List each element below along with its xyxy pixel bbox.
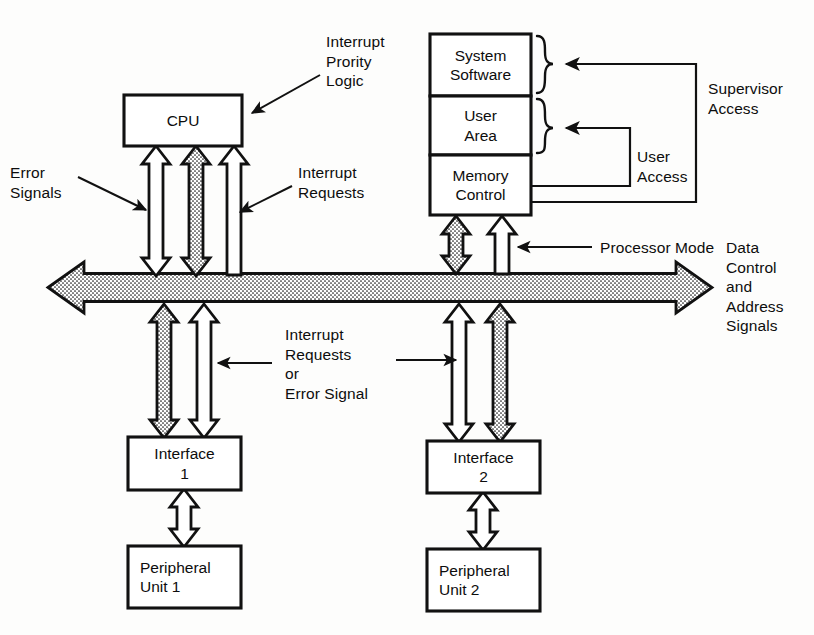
interface2-interrupt-channel (445, 304, 473, 442)
system-software-box (430, 34, 531, 96)
memory-control-box (430, 155, 531, 215)
interrupt-priority-leader (252, 75, 320, 113)
user-brace (537, 99, 553, 153)
interface1-peripheral1-channel (170, 489, 198, 547)
peripheral-unit-1-box (128, 546, 241, 608)
system-bus (48, 262, 712, 313)
interface-1-box (128, 437, 241, 490)
peripheral-unit-2-box (427, 549, 540, 611)
memory-bus-data-channel (442, 216, 470, 274)
interrupt-priority-logic-label: Interrupt Prority Logic (326, 32, 385, 91)
interrupt-requests-label: Interrupt Requests (298, 163, 364, 202)
error-signals-channel (142, 146, 170, 276)
interface2-peripheral2-channel (469, 492, 497, 550)
interrupt-requests-or-error-signal-label: Interrupt Requests or Error Signal (285, 325, 368, 403)
interface1-interrupt-channel (190, 304, 218, 438)
error-signals-label: Error Signals (10, 163, 62, 202)
cpu-bus-data-channel (182, 146, 210, 276)
interrupt-requests-leader (240, 186, 292, 212)
error-signals-leader (78, 177, 146, 210)
cpu-box (124, 95, 242, 146)
user-area-box (430, 96, 531, 155)
supervisor-brace (537, 36, 553, 93)
processor-mode-channel (488, 216, 516, 274)
processor-mode-label: Processor Mode (600, 238, 714, 258)
interface2-data-channel (486, 304, 514, 442)
interface-2-box (427, 441, 540, 493)
interface1-data-channel (150, 304, 178, 438)
user-access-label: User Access (637, 147, 688, 186)
bus-signals-label: Data Control and Address Signals (726, 238, 784, 336)
diagram-canvas (0, 0, 814, 635)
block-diagram: CPU System Software User Area Memory Con… (0, 0, 814, 635)
supervisor-access-label: Supervisor Access (708, 79, 783, 118)
